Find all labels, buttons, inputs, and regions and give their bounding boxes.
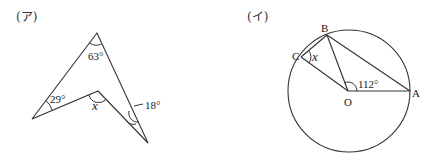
figure-i-label: (イ) [247, 10, 268, 24]
figure-a-label: (ア) [16, 10, 37, 24]
point-label-A: A [412, 87, 420, 99]
angle-label-x: x [91, 98, 98, 113]
point-label-B: B [321, 22, 328, 34]
figure-a: (ア) 63° 29° x 18° [16, 10, 160, 143]
angle-arc-top [90, 43, 102, 45]
angle-arc-right-inner [126, 120, 136, 124]
geometry-diagram: (ア) 63° 29° x 18° (イ) B C O A [0, 0, 442, 162]
angle-label-x: x [311, 49, 318, 64]
leader-line-18 [134, 104, 143, 106]
point-label-O: O [344, 96, 352, 108]
angle-label-18: 18° [145, 99, 160, 111]
point-label-C: C [292, 50, 299, 62]
angle-label-112: 112° [358, 78, 379, 90]
segment-CO [301, 57, 348, 91]
angle-label-63: 63° [88, 50, 103, 62]
angle-arc-BCO [309, 51, 311, 63]
angle-label-29: 29° [50, 93, 65, 105]
figure-i: (イ) B C O A 112° x [247, 10, 420, 152]
